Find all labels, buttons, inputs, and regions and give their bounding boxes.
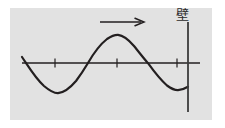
wave-curve [22, 35, 188, 93]
wall-label: 壁 [174, 7, 190, 23]
propagation-direction-arrow [100, 18, 144, 26]
wave-diagram-figure: 壁 [0, 0, 225, 128]
diagram-vector-layer [0, 0, 225, 128]
